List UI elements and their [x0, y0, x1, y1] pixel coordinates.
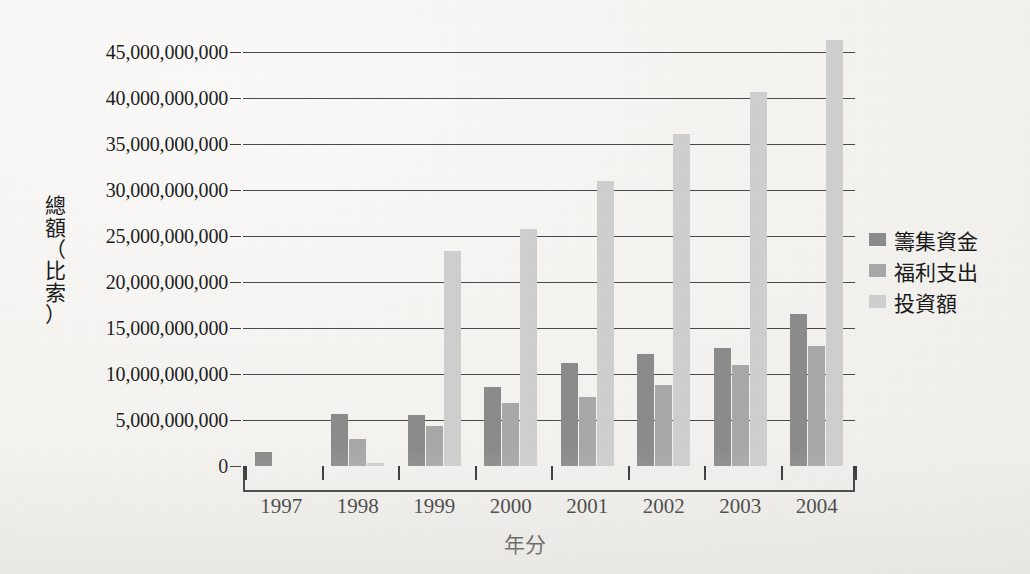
y-axis-tick-label: 25,000,000,000 [0, 225, 228, 248]
y-axis-tick-mark [230, 420, 241, 421]
bar [655, 385, 672, 466]
y-axis-tick-label: 15,000,000,000 [0, 317, 228, 340]
bar [637, 354, 654, 466]
y-axis-tick-label: 30,000,000,000 [0, 179, 228, 202]
chart-page: 總額（比索） 05,000,000,00010,000,000,00015,00… [0, 0, 1030, 574]
bar [426, 426, 443, 466]
bar [444, 251, 461, 466]
bar [826, 40, 843, 466]
x-axis-title: 年分 [0, 528, 1030, 558]
legend-label: 投資額 [894, 287, 957, 317]
y-axis-tick-label: 5,000,000,000 [0, 409, 228, 432]
x-axis-tick-label: 2001 [549, 494, 626, 519]
bar [579, 397, 596, 466]
legend-swatch [869, 264, 886, 277]
bar [597, 181, 614, 466]
legend-item: 福利支出 [869, 255, 1019, 286]
y-axis-title-char: （ [38, 240, 72, 262]
bar [331, 414, 348, 466]
y-axis-tick-mark [230, 144, 241, 145]
x-axis-tick-label: 1999 [396, 494, 473, 519]
x-axis-tick-mark [245, 466, 247, 480]
legend-item: 籌集資金 [869, 224, 1019, 255]
y-axis-title: 總額（比索） [38, 196, 72, 327]
bar [502, 403, 519, 466]
x-axis-tick-mark [781, 466, 783, 480]
y-axis-title-char: ） [38, 305, 72, 327]
x-axis-tick-mark [475, 466, 477, 480]
x-axis-tick-label: 1998 [320, 494, 397, 519]
legend-item: 投資額 [869, 286, 1019, 317]
legend: 籌集資金福利支出投資額 [869, 224, 1019, 317]
y-axis-tick-mark [230, 98, 241, 99]
x-axis-tick-mark [628, 466, 630, 480]
y-axis-title-char: 總 [38, 196, 72, 218]
bar [808, 346, 825, 466]
legend-label: 福利支出 [894, 256, 978, 286]
bar [673, 134, 690, 466]
bar [750, 92, 767, 466]
bar [255, 452, 272, 466]
y-axis-tick-mark [230, 282, 241, 283]
y-axis-title-char: 額 [38, 218, 72, 240]
x-axis-tick-label: 2003 [702, 494, 779, 519]
x-axis-tick-mark [704, 466, 706, 480]
x-axis-tick-mark [398, 466, 400, 480]
x-axis-tick-mark [855, 466, 857, 480]
bar [790, 314, 807, 466]
x-axis [243, 466, 855, 492]
y-axis-tick-mark [230, 52, 241, 53]
x-axis-tick-mark [322, 466, 324, 480]
bar [408, 415, 425, 466]
y-axis-tick-mark [230, 236, 241, 237]
x-axis-tick-label: 2002 [626, 494, 703, 519]
y-axis-title-char: 比 [38, 261, 72, 283]
legend-label: 籌集資金 [894, 225, 978, 255]
y-axis-tick-label: 0 [0, 455, 228, 478]
x-axis-tick-label: 2000 [473, 494, 550, 519]
bar [714, 348, 731, 466]
y-axis-tick-label: 40,000,000,000 [0, 87, 228, 110]
y-axis-tick-label: 10,000,000,000 [0, 363, 228, 386]
y-axis-tick-label: 45,000,000,000 [0, 41, 228, 64]
y-axis-tick-label: 20,000,000,000 [0, 271, 228, 294]
y-axis-tick-label: 35,000,000,000 [0, 133, 228, 156]
bar [349, 439, 366, 466]
bar [561, 363, 578, 466]
y-axis-tick-mark [230, 374, 241, 375]
x-axis-tick-label: 1997 [243, 494, 320, 519]
legend-swatch [869, 233, 886, 246]
y-axis-tick-mark [230, 328, 241, 329]
y-axis-tick-mark [230, 190, 241, 191]
bar [732, 365, 749, 466]
bar [484, 387, 501, 466]
plot-area [243, 52, 855, 466]
legend-swatch [869, 295, 886, 308]
x-axis-tick-label: 2004 [779, 494, 856, 519]
y-axis-tick-mark [230, 466, 241, 467]
gridline [243, 52, 855, 53]
y-axis-title-char: 索 [38, 283, 72, 305]
bar [520, 229, 537, 466]
x-axis-tick-mark [551, 466, 553, 480]
